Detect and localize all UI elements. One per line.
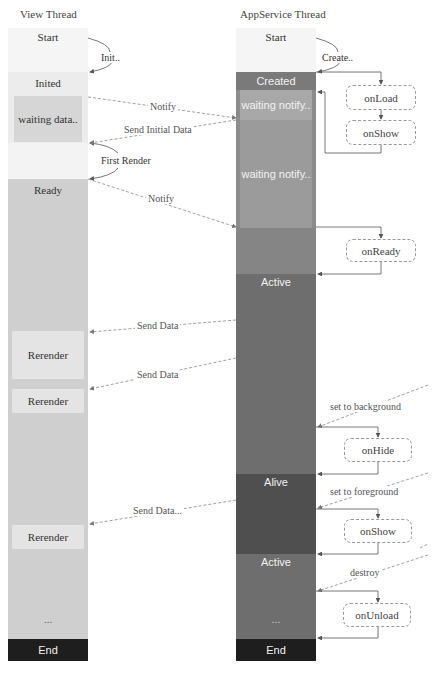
send-data-1-label: Send Data (135, 320, 180, 331)
hook-onhide-label: onHide (362, 444, 394, 456)
destroy-arrow-tail (420, 544, 428, 548)
notify-1-label: Notify (148, 101, 178, 112)
hook-onready-label: onReady (361, 245, 400, 257)
onunload-return-connector (318, 627, 378, 638)
onready-return-connector (318, 262, 381, 274)
hook-onunload-label: onUnload (355, 609, 398, 621)
hook-onready: onReady (346, 239, 416, 262)
onunload-connector (316, 591, 378, 602)
init-label: Init.. (100, 52, 121, 63)
send-data-3-label: Send Data... (131, 505, 184, 516)
onload-connector (316, 72, 381, 84)
hook-onshow-1: onShow (346, 120, 416, 145)
onready-connector (316, 227, 381, 238)
hook-onunload: onUnload (343, 603, 411, 627)
onhide-connector (316, 427, 378, 437)
onshow-2-return-connector (318, 543, 378, 554)
set-to-background-label: set to background (328, 401, 403, 412)
hook-onload: onLoad (346, 85, 416, 110)
hook-onshow-1-label: onShow (363, 127, 399, 139)
create-label: Create.. (321, 52, 354, 63)
hook-onshow-2-label: onShow (360, 525, 396, 537)
notify-2-label: Notify (146, 193, 176, 204)
hook-onshow-2: onShow (344, 519, 412, 543)
first-render-label: First Render (100, 155, 152, 166)
hook-onhide: onHide (344, 438, 412, 462)
send-initial-data-label: Send Initial Data (122, 124, 194, 135)
onhide-return-connector (318, 462, 378, 474)
hook-onload-label: onLoad (364, 92, 398, 104)
set-to-foreground-label: set to foreground (328, 486, 400, 497)
onshow-2-connector (316, 509, 378, 518)
destroy-label: destroy (348, 567, 381, 578)
send-data-2-label: Send Data (135, 369, 180, 380)
first-render-arrow-top (90, 143, 118, 153)
first-render-arrow-bottom (90, 168, 118, 179)
